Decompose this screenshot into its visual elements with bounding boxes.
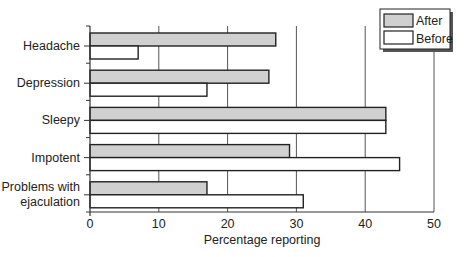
legend-swatch-before [384, 31, 413, 44]
category-label: Depression [17, 76, 80, 90]
legend-swatch-after [384, 14, 413, 27]
bar-after [90, 107, 386, 120]
tick-labels: 01020304050 [87, 217, 441, 231]
bar-before [90, 46, 138, 59]
bar-before [90, 120, 386, 133]
category-label: Sleepy [42, 113, 81, 127]
x-tick-label: 50 [427, 217, 441, 231]
x-tick-label: 40 [358, 217, 372, 231]
x-axis-title: Percentage reporting [204, 233, 321, 247]
bar-chart: HeadacheDepressionSleepyImpotentProblems… [0, 0, 467, 257]
legend: After Before [380, 9, 453, 52]
bar-before [90, 195, 303, 208]
category-label: Impotent [31, 151, 80, 165]
x-tick-label: 10 [152, 217, 166, 231]
bars [90, 33, 400, 208]
bar-after [90, 182, 207, 195]
category-label: ejaculation [20, 195, 80, 209]
x-tick-label: 0 [87, 217, 94, 231]
category-label: Headache [23, 39, 80, 53]
bar-after [90, 145, 290, 158]
x-tick-label: 20 [221, 217, 235, 231]
category-labels: HeadacheDepressionSleepyImpotentProblems… [2, 39, 81, 209]
legend-label-before: Before [416, 32, 453, 46]
bar-after [90, 33, 276, 46]
legend-label-after: After [416, 14, 442, 28]
bar-after [90, 70, 269, 83]
x-tick-label: 30 [289, 217, 303, 231]
bar-before [90, 83, 207, 96]
category-label: Problems with [2, 180, 81, 194]
bar-before [90, 158, 400, 171]
